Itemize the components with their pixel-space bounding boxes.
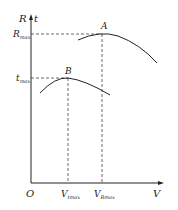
vtmax-label: Vtmax — [61, 189, 80, 200]
tmax-label: tmax — [16, 73, 30, 84]
curve-r — [78, 34, 157, 63]
origin-label: O — [26, 188, 34, 199]
rmax-label: Rmax — [12, 29, 31, 40]
point-a-label: A — [100, 21, 108, 31]
x-axis-label-v: V — [153, 188, 162, 199]
curve-t — [40, 78, 110, 95]
x-axis-arrow-icon — [158, 181, 164, 185]
diagram-canvas: R t V O Rmax tmax Vtmax VRmax A B — [0, 0, 178, 210]
vrmax-label: VRmax — [94, 189, 115, 200]
y-axis-label-t: t — [34, 13, 39, 24]
y-axis-arrow-icon — [29, 14, 33, 20]
y-axis-label-r: R — [18, 13, 27, 24]
point-b-label: B — [64, 66, 72, 76]
